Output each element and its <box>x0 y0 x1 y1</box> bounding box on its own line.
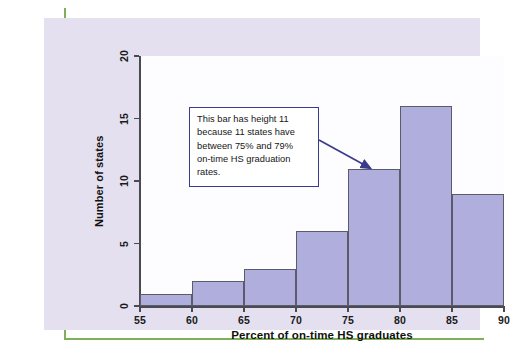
annotation-callout-text: This bar has height 11 because 11 states… <box>197 113 312 179</box>
x-axis-line <box>139 306 505 308</box>
x-tick-label-55: 55 <box>127 314 153 326</box>
histogram-bar <box>140 294 192 307</box>
y-axis-title: Number of states <box>90 56 108 306</box>
x-tick-65 <box>243 307 245 312</box>
y-tick-label-5: 5 <box>118 235 130 253</box>
x-tick-label-65: 65 <box>231 314 257 326</box>
annotation-callout-box: This bar has height 11 because 11 states… <box>189 107 319 187</box>
y-tick-0 <box>134 305 139 307</box>
y-tick-label-0: 0 <box>118 297 130 315</box>
x-tick-60 <box>191 307 193 312</box>
y-axis-line <box>139 56 141 307</box>
x-tick-55 <box>139 307 141 312</box>
x-tick-label-75: 75 <box>335 314 361 326</box>
histogram-bar <box>400 106 452 306</box>
y-tick-label-15: 15 <box>118 110 130 128</box>
x-tick-label-90: 90 <box>491 314 514 326</box>
histogram-bar <box>452 194 504 307</box>
x-tick-75 <box>347 307 349 312</box>
histogram-bar <box>192 281 244 306</box>
x-tick-label-80: 80 <box>387 314 413 326</box>
figure-panel: 05101520 5560657075808590 Number of stat… <box>44 18 480 330</box>
y-tick-label-20: 20 <box>118 47 130 65</box>
x-tick-label-70: 70 <box>283 314 309 326</box>
y-tick-15 <box>134 118 139 120</box>
x-tick-70 <box>295 307 297 312</box>
histogram-bar <box>296 231 348 306</box>
x-axis-title: Percent of on-time HS graduates <box>140 329 504 341</box>
y-tick-5 <box>134 243 139 245</box>
histogram-bar <box>348 169 400 307</box>
x-tick-label-60: 60 <box>179 314 205 326</box>
annotation-arrow-icon <box>309 130 389 182</box>
histogram-bar <box>244 269 296 307</box>
x-tick-90 <box>503 307 505 312</box>
y-tick-20 <box>134 55 139 57</box>
x-tick-80 <box>399 307 401 312</box>
y-tick-label-10: 10 <box>118 172 130 190</box>
y-tick-10 <box>134 180 139 182</box>
x-tick-85 <box>451 307 453 312</box>
x-tick-label-85: 85 <box>439 314 465 326</box>
